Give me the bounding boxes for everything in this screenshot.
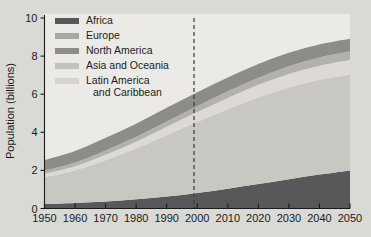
x-tick-label: 1960 <box>63 212 87 224</box>
legend-swatch <box>55 63 79 69</box>
x-tick-label: 1950 <box>32 212 56 224</box>
legend-swatch <box>55 48 79 54</box>
x-tick-label: 2000 <box>185 212 209 224</box>
legend-label: Latin America <box>86 74 150 86</box>
x-tick-label: 1980 <box>124 212 148 224</box>
legend-swatch <box>55 33 79 39</box>
legend-label: North America <box>86 44 153 56</box>
legend-label: Europe <box>86 29 120 41</box>
legend-swatch <box>55 78 79 84</box>
y-tick-label: 8 <box>31 50 37 62</box>
x-tick-label: 2030 <box>277 212 301 224</box>
chart-figure: 0246810 19501960197019801990200020102020… <box>0 0 371 237</box>
y-tick-label: 4 <box>31 126 37 138</box>
legend-swatch <box>55 18 79 24</box>
legend-label: Africa <box>86 14 113 26</box>
x-tick-label: 2040 <box>307 212 331 224</box>
legend-label: Asia and Oceania <box>86 59 169 71</box>
x-tick-label: 1970 <box>93 212 117 224</box>
y-tick-label: 2 <box>31 164 37 176</box>
x-tick-label: 2010 <box>216 212 240 224</box>
y-tick-label: 10 <box>25 12 37 24</box>
legend-label-continued: and Caribbean <box>93 86 162 98</box>
population-stacked-area-chart: 0246810 19501960197019801990200020102020… <box>0 0 371 237</box>
x-tick-label: 1990 <box>154 212 178 224</box>
y-axis-title: Population (billions) <box>4 63 16 159</box>
x-tick-label: 2020 <box>246 212 270 224</box>
y-tick-label: 6 <box>31 88 37 100</box>
x-tick-label: 2050 <box>338 212 362 224</box>
